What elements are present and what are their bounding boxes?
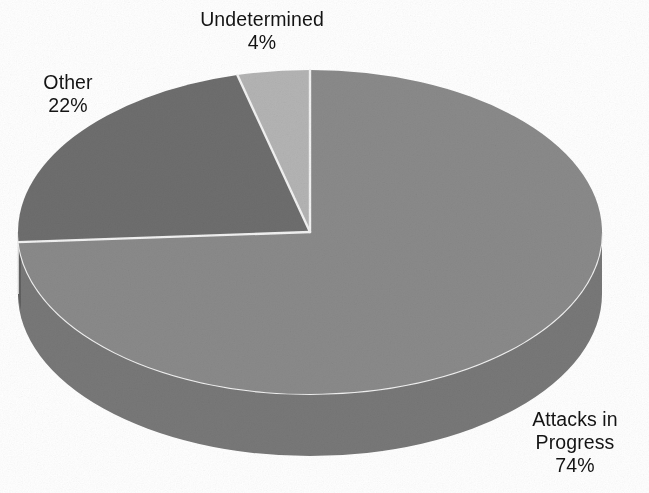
slice-label-other-name: Other: [6, 71, 130, 94]
slice-label-other: Other 22%: [6, 71, 130, 117]
pie-top-surface: [18, 70, 602, 394]
slice-label-other-value: 22%: [6, 94, 130, 117]
slice-label-attacks-in-progress-name-line2: Progress: [505, 431, 645, 454]
slice-label-attacks-in-progress: Attacks in Progress 74%: [505, 408, 645, 477]
slice-label-attacks-in-progress-name-line1: Attacks in: [505, 408, 645, 431]
pie-chart: Undetermined 4% Other 22% Attacks in Pro…: [0, 0, 649, 493]
slice-label-attacks-in-progress-value: 74%: [505, 454, 645, 477]
slice-label-undetermined-value: 4%: [172, 31, 352, 54]
slice-label-undetermined: Undetermined 4%: [172, 8, 352, 54]
slice-label-undetermined-name: Undetermined: [172, 8, 352, 31]
